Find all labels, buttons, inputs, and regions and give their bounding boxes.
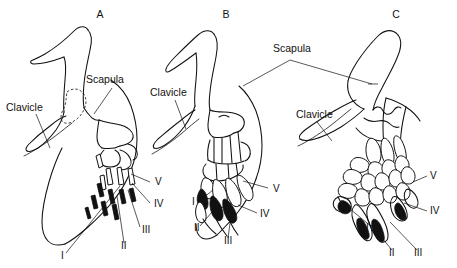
label-clavicle-c: Clavicle xyxy=(296,108,333,120)
panel-a-drawing xyxy=(24,27,150,253)
digit-label-a-i: I xyxy=(61,250,64,261)
digit-label-b-iii: III xyxy=(224,235,232,246)
digit-label-a-ii: II xyxy=(121,240,127,251)
digit-label-a-v: V xyxy=(155,176,162,187)
panel-letter-c: C xyxy=(392,8,400,20)
anatomical-figure: A Scapula Clavicle I II III IV V xyxy=(0,0,457,268)
label-clavicle-b: Clavicle xyxy=(150,86,187,98)
panel-c-drawing xyxy=(298,31,427,250)
label-clavicle-a: Clavicle xyxy=(6,101,43,113)
panel-letter-b: B xyxy=(222,8,229,20)
panel-a-labels: A Scapula Clavicle I II III IV V xyxy=(6,8,164,261)
digit-label-c-i: I xyxy=(366,222,369,233)
digit-label-c-ii: II xyxy=(389,247,395,258)
panel-c-carpal-blocks xyxy=(338,136,415,206)
digit-label-c-iii: III xyxy=(414,247,422,258)
digit-label-b-iv: IV xyxy=(260,208,270,219)
panel-a-digit-bones xyxy=(85,154,136,220)
digit-label-b-i: I xyxy=(192,196,195,207)
label-scapula-shared: Scapula xyxy=(273,42,311,54)
panel-letter-a: A xyxy=(96,8,103,20)
digit-label-c-v: V xyxy=(430,170,437,181)
digit-label-c-iv: IV xyxy=(430,205,440,216)
digit-label-b-ii: II xyxy=(194,222,200,233)
figure-root: A Scapula Clavicle I II III IV V xyxy=(0,0,457,268)
digit-label-a-iii: III xyxy=(142,224,150,235)
digit-label-a-iv: IV xyxy=(154,198,164,209)
panel-b-drawing xyxy=(152,31,268,239)
shared-scapula-leader: Scapula xyxy=(243,42,378,86)
label-scapula-a: Scapula xyxy=(86,73,124,85)
digit-label-b-v: V xyxy=(273,183,280,194)
